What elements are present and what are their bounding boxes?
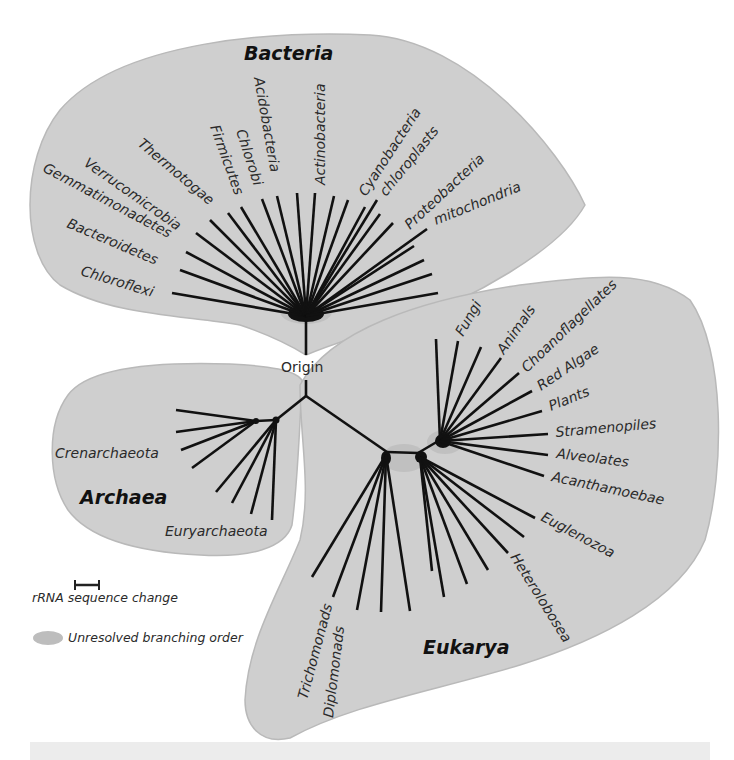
label-crenarchaeota: Crenarchaeota bbox=[55, 445, 159, 461]
scale-bar-label: rRNA sequence change bbox=[32, 590, 178, 605]
bacteria-domain-label: Bacteria bbox=[244, 42, 333, 64]
footer-band bbox=[30, 742, 710, 760]
unresolved-label: Unresolved branching order bbox=[68, 630, 244, 645]
scale-bar-icon bbox=[75, 580, 99, 590]
origin-label: Origin bbox=[281, 359, 323, 375]
label-euryarchaeota: Euryarchaeota bbox=[165, 523, 268, 539]
eukarya-domain-label: Eukarya bbox=[423, 636, 510, 658]
unresolved-swatch-icon bbox=[33, 631, 63, 645]
tree-of-life-diagram: Bacteria Chloroflexi Bacteroidetes Gemma… bbox=[0, 0, 734, 760]
label-actinobacteria: Actinobacteria bbox=[312, 83, 328, 186]
archaea-domain-label: Archaea bbox=[78, 486, 167, 508]
legend: rRNA sequence change Unresolved branchin… bbox=[32, 580, 244, 645]
